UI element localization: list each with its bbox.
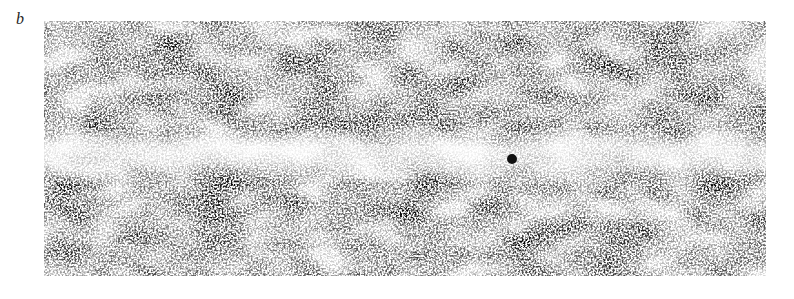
- panel-label: b: [16, 10, 24, 28]
- particle-dot: [507, 154, 517, 164]
- micrograph-image: [44, 21, 766, 276]
